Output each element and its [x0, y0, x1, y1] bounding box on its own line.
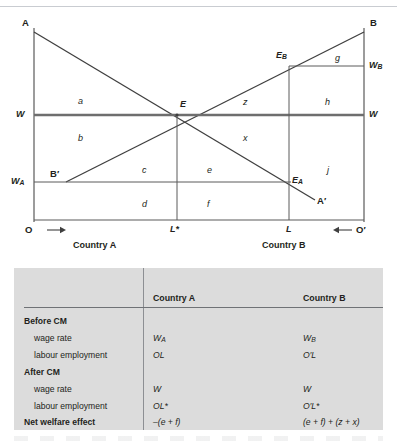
- table-row-label-wage-rate-after: wage rate: [34, 385, 72, 394]
- label-W-A: WA: [11, 177, 24, 187]
- label-E-A: EA: [292, 176, 303, 186]
- label-E-B-sub: B: [282, 53, 287, 60]
- table-cell-a-wage-before-sub: A: [161, 336, 166, 343]
- label-W-B-main: W: [369, 60, 378, 70]
- caption-country-a: Country A: [73, 241, 116, 250]
- table-row-label-before-cm: Before CM: [24, 317, 67, 326]
- table-row-label-after-cm: After CM: [24, 368, 60, 377]
- label-O: O: [25, 225, 33, 235]
- label-L-star: L*: [170, 225, 179, 234]
- label-W-right: W: [369, 110, 378, 119]
- table-cell-b-wage-before-sub: B: [311, 336, 316, 343]
- table-cell-a-wage-after: W: [153, 385, 161, 394]
- area-label-g: g: [335, 54, 340, 63]
- table-cell-b-wage-before-main: W: [303, 333, 311, 343]
- table-cell-b-wage-before: WB: [303, 334, 316, 344]
- area-label-b: b: [78, 134, 83, 143]
- table-row-label-labour-after: labour employment: [34, 402, 107, 411]
- area-label-z: z: [243, 98, 248, 107]
- label-E: E: [180, 100, 186, 109]
- table-cell-a-wage-before-main: W: [153, 333, 161, 343]
- table-row-label-wage-rate-before: wage rate: [34, 334, 72, 343]
- label-L: L: [286, 225, 292, 234]
- caption-faint-text: [14, 436, 383, 441]
- label-W-A-sub: A: [20, 179, 25, 186]
- top-rule: [0, 6, 397, 7]
- label-W-B: WB: [369, 61, 382, 71]
- label-B: B: [370, 18, 377, 28]
- label-E-A-sub: A: [298, 178, 303, 185]
- area-label-x: x: [243, 134, 248, 143]
- table-cell-b-wage-after: W: [303, 385, 311, 394]
- demand-curve-country-b: [66, 32, 364, 182]
- table-cell-b-net-welfare: (e + f) + (z + x): [303, 418, 360, 427]
- diagram-svg: [0, 10, 397, 260]
- figure-page: A B A′ B′ W W WA WB O O′ L* L E EA EB a …: [0, 0, 397, 445]
- area-label-h: h: [325, 98, 330, 107]
- area-label-f: f: [207, 200, 210, 209]
- caption-country-b: Country B: [262, 241, 306, 250]
- label-W-left: W: [16, 110, 25, 119]
- area-label-a: a: [78, 97, 83, 106]
- welfare-summary-table: Country A Country B Before CM wage rate …: [14, 268, 383, 430]
- table-header-rule: [24, 307, 383, 308]
- label-B-prime: B′: [50, 169, 59, 179]
- label-E-B: EB: [276, 51, 287, 61]
- area-label-e: e: [207, 166, 212, 175]
- area-label-j: j: [327, 166, 329, 175]
- label-O-prime: O′: [356, 225, 366, 235]
- table-cell-a-labour-after: OL*: [153, 402, 168, 411]
- table-vertical-divider: [143, 268, 144, 430]
- table-cell-b-labour-before: O′L: [303, 351, 316, 360]
- table-header-country-a: Country A: [153, 294, 195, 303]
- label-W-B-sub: B: [378, 63, 383, 70]
- label-W-A-main: W: [11, 176, 20, 186]
- table-cell-a-labour-before: OL: [153, 351, 164, 360]
- labour-market-diagram: A B A′ B′ W W WA WB O O′ L* L E EA EB a …: [0, 10, 397, 260]
- o-direction-arrow-head: [60, 227, 66, 233]
- table-cell-a-net-welfare: –(e + f): [153, 418, 180, 427]
- table-cell-b-labour-after: O′L*: [303, 402, 319, 411]
- table-row-label-net-welfare: Net welfare effect: [24, 418, 95, 427]
- label-A-prime: A′: [317, 196, 326, 206]
- table-header-country-b: Country B: [303, 294, 346, 303]
- equilibrium-point-e: [175, 113, 178, 116]
- area-label-c: c: [142, 166, 147, 175]
- table-row-label-labour-before: labour employment: [34, 351, 107, 360]
- label-A: A: [22, 18, 29, 28]
- area-label-d: d: [142, 200, 147, 209]
- table-cell-a-wage-before: WA: [153, 334, 166, 344]
- oprime-direction-arrow-head: [333, 227, 339, 233]
